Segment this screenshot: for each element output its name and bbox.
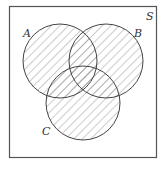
set-b-label: B bbox=[133, 27, 142, 40]
set-a-label: A bbox=[22, 27, 31, 40]
universe-label: S bbox=[146, 10, 154, 23]
set-c-label: C bbox=[42, 125, 51, 138]
venn-diagram: S A B C bbox=[0, 0, 163, 170]
